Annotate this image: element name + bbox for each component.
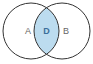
venn-diagram: A D B xyxy=(0,0,93,64)
label-d: D xyxy=(43,26,50,36)
label-a: A xyxy=(25,26,31,36)
label-b: B xyxy=(63,26,69,36)
